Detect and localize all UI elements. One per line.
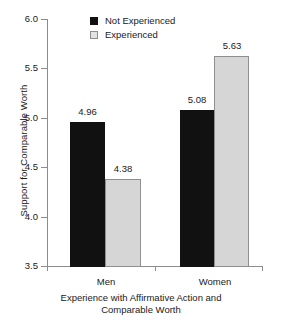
y-tick-text-4-5: 4.5 [25,162,38,172]
x-axis-title-line-2: Comparable Worth [12,304,270,316]
y-tick-text-3-5: 3.5 [25,261,38,271]
y-tick-mark-6-0 [41,19,47,20]
bar-chart: Support for Comparable Worth 6.0 5.5 5.0… [0,0,282,323]
y-tick-text-4-0: 4.0 [25,212,38,222]
legend-label-not-experienced: Not Experienced [105,16,175,26]
x-axis-title-line-1: Experience with Affirmative Action and [12,292,270,304]
legend-item-not-experienced[interactable]: Not Experienced [90,14,175,28]
x-tick-mark-right [262,266,263,271]
x-axis-title: Experience with Affirmative Action and C… [12,292,270,315]
legend-label-experienced: Experienced [105,30,158,40]
x-category-label-men: Men [76,276,136,287]
x-tick-mark-middle [155,266,156,271]
y-axis-line [47,19,48,267]
legend: Not Experienced Experienced [90,14,175,42]
bar-women-experienced[interactable] [214,56,249,267]
light-square-icon [90,31,98,39]
bar-men-experienced[interactable] [105,179,141,267]
y-tick-mark-4-0 [41,217,47,218]
x-tick-mark-left [47,266,48,271]
y-tick-text-5-0: 5.0 [25,113,38,123]
black-square-icon [90,17,98,25]
y-tick-mark-5-5 [41,68,47,69]
x-category-label-women: Women [184,276,246,287]
y-tick-text-5-5: 5.5 [25,63,38,73]
y-tick-text-6-0: 6.0 [25,14,38,24]
legend-item-experienced[interactable]: Experienced [90,28,175,42]
bar-value-men-experienced: 4.38 [97,164,149,174]
y-tick-mark-4-5 [41,167,47,168]
bar-value-women-experienced: 5.63 [206,41,258,51]
y-tick-mark-5-0 [41,118,47,119]
bar-men-not-experienced[interactable] [70,122,105,267]
bar-value-men-not-experienced: 4.96 [62,107,113,117]
bar-women-not-experienced[interactable] [180,110,214,267]
